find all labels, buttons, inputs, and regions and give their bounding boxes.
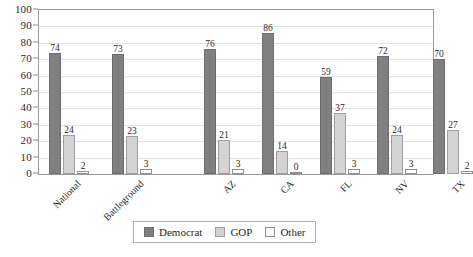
bar-value-label: 23 <box>127 126 137 136</box>
bar-other[interactable]: 3 <box>140 169 152 174</box>
bar-value-label: 74 <box>50 43 60 53</box>
bar-group: 86140 <box>262 10 302 174</box>
bar-gop[interactable]: 21 <box>218 140 230 174</box>
y-axis: 1009080706050403020100 <box>0 9 38 175</box>
bar-value-label: 72 <box>378 46 388 56</box>
bar-value-label: 3 <box>409 159 414 169</box>
y-axis-tick-label: 0 <box>26 168 32 179</box>
y-axis-tick-label: 50 <box>21 86 32 97</box>
bar-value-label: 24 <box>392 125 402 135</box>
bar-value-label: 3 <box>352 159 357 169</box>
y-axis-tick-label: 10 <box>21 151 32 162</box>
bar-value-label: 27 <box>448 120 458 130</box>
bar-other[interactable]: 3 <box>405 169 417 174</box>
bar-gop[interactable]: 37 <box>334 113 346 174</box>
bar-other[interactable]: 0 <box>290 172 302 174</box>
bar-value-label: 59 <box>321 67 331 77</box>
bar-value-label: 70 <box>434 49 444 59</box>
y-axis-tick-label: 60 <box>21 69 32 80</box>
x-axis-tick-label: National <box>51 178 83 210</box>
bar-democrat[interactable]: 74 <box>49 53 61 174</box>
x-axis-tick-label: Battleground <box>101 178 146 223</box>
y-axis-tick-label: 20 <box>21 135 32 146</box>
bar-gop[interactable]: 27 <box>447 130 459 174</box>
bar-other[interactable]: 3 <box>348 169 360 174</box>
x-axis: NationalBattlegroundAZCAFLNVTX <box>39 176 433 220</box>
bar-democrat[interactable]: 73 <box>112 54 124 174</box>
bar-democrat[interactable]: 59 <box>320 77 332 174</box>
chart-legend: DemocratGOPOther <box>133 221 316 243</box>
bar-group: 73233 <box>112 10 152 174</box>
x-axis-tick-label: AZ <box>221 178 238 195</box>
bar-other[interactable]: 2 <box>77 171 89 174</box>
bar-gop[interactable]: 14 <box>276 151 288 174</box>
bar-value-label: 3 <box>144 159 149 169</box>
bar-democrat[interactable]: 70 <box>433 59 445 174</box>
bar-group: 72243 <box>377 10 417 174</box>
legend-label: Democrat <box>159 226 202 238</box>
bar-value-label: 14 <box>277 141 287 151</box>
bar-gop[interactable]: 24 <box>391 135 403 174</box>
bar-group: 74242 <box>49 10 89 174</box>
y-axis-tick-label: 90 <box>21 20 32 31</box>
bar-value-label: 2 <box>465 161 470 171</box>
bar-democrat[interactable]: 86 <box>262 33 274 174</box>
other-swatch-icon <box>265 227 275 237</box>
bar-democrat[interactable]: 76 <box>204 49 216 174</box>
bar-group: 59373 <box>320 10 360 174</box>
bar-value-label: 3 <box>236 159 241 169</box>
x-axis-tick-label: NV <box>393 178 411 196</box>
bar-gop[interactable]: 23 <box>126 136 138 174</box>
bar-democrat[interactable]: 72 <box>377 56 389 174</box>
plot-area: 74242732337621386140593737224370272 <box>39 10 433 174</box>
legend-item-gop[interactable]: GOP <box>215 226 252 238</box>
x-axis-tick-label: TX <box>450 178 467 195</box>
bar-value-label: 24 <box>64 125 74 135</box>
x-axis-tick-label: CA <box>278 178 296 196</box>
y-axis-tick-label: 40 <box>21 102 32 113</box>
legend-item-other[interactable]: Other <box>265 226 305 238</box>
bar-value-label: 37 <box>335 103 345 113</box>
legend-item-democrat[interactable]: Democrat <box>144 226 202 238</box>
legend-label: GOP <box>230 226 252 238</box>
y-axis-tick-label: 70 <box>21 53 32 64</box>
bar-group: 76213 <box>204 10 244 174</box>
y-axis-tick-label: 100 <box>15 4 32 15</box>
bar-value-label: 76 <box>205 39 215 49</box>
gop-swatch-icon <box>215 227 225 237</box>
bar-value-label: 2 <box>81 161 86 171</box>
bar-other[interactable]: 3 <box>232 169 244 174</box>
bar-value-label: 86 <box>263 23 273 33</box>
bar-value-label: 0 <box>294 162 299 172</box>
y-axis-tick-label: 80 <box>21 36 32 47</box>
bar-gop[interactable]: 24 <box>63 135 75 174</box>
bar-group: 70272 <box>433 10 473 174</box>
x-axis-tick-label: FL <box>338 178 354 194</box>
bar-value-label: 73 <box>113 44 123 54</box>
bar-other[interactable]: 2 <box>461 171 473 174</box>
bar-value-label: 21 <box>219 130 229 140</box>
legend-label: Other <box>280 226 305 238</box>
democrat-swatch-icon <box>144 227 154 237</box>
y-axis-tick-label: 30 <box>21 118 32 129</box>
